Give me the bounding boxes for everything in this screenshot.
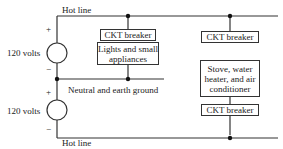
load-right-stove: Stove, water heater, and air conditioner [200, 60, 260, 97]
source-top-minus: − [46, 64, 51, 74]
neutral-label: Neutral and earth ground [68, 85, 158, 95]
source-top-voltage: 120 volts [7, 48, 40, 58]
load-left-lights: Lights and small appliances [97, 42, 159, 65]
breaker-left: CKT breaker [100, 29, 156, 41]
hot-line-bottom-label: Hot line [62, 138, 91, 148]
breaker-right-top: CKT breaker [201, 31, 259, 43]
source-top-plus: + [46, 24, 51, 34]
source-bottom-plus: + [46, 87, 51, 97]
breaker-right-bottom: CKT breaker [201, 104, 259, 116]
source-bottom-voltage: 120 volts [7, 106, 40, 116]
hot-line-top-label: Hot line [62, 5, 91, 15]
circuit-diagram: Hot line Hot line Neutral and earth grou… [0, 0, 283, 149]
source-bottom-minus: − [46, 124, 51, 134]
